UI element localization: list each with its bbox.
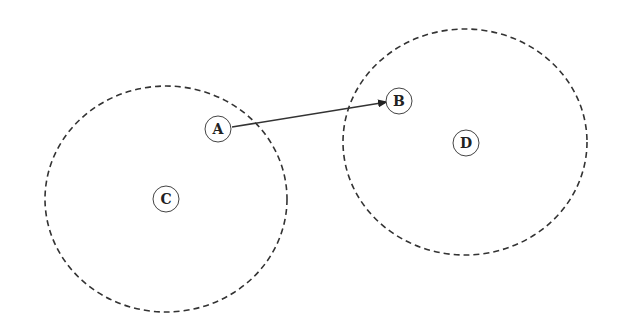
node-a: A: [205, 116, 231, 142]
node-a-label: A: [212, 121, 225, 137]
diagram-canvas: A B C D: [0, 0, 621, 332]
node-d-label: D: [460, 135, 472, 151]
node-b: B: [386, 88, 412, 114]
node-b-label: B: [393, 93, 405, 109]
node-c: C: [153, 186, 179, 212]
node-c-label: C: [160, 191, 171, 207]
edge-a-to-b: [232, 102, 387, 127]
node-d: D: [453, 130, 479, 156]
